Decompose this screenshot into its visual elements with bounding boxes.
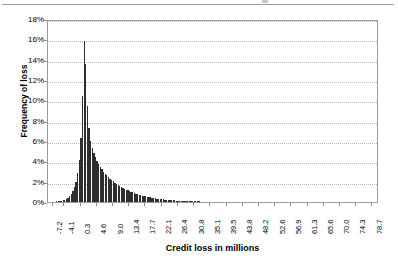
credit-loss-histogram-chart: Frequency of loss 0%2%4%6%8%10%12%14%16%… — [0, 0, 398, 260]
y-axis-tick-label: 0% — [4, 198, 44, 207]
x-axis-tick-mark — [193, 203, 194, 206]
y-axis-tick-label: 14% — [4, 56, 44, 65]
x-axis-tick-label: 56.9 — [294, 220, 303, 234]
x-axis-tick-mark — [258, 203, 259, 206]
x-axis-tick-mark — [144, 203, 145, 206]
x-axis-tick-mark — [274, 203, 275, 206]
gridline — [48, 41, 377, 42]
x-axis-tick-mark — [96, 203, 97, 206]
gridline — [48, 123, 377, 124]
x-axis-tick-mark — [209, 203, 210, 206]
x-axis-tick-label: 70.0 — [342, 220, 351, 234]
x-axis-tick-mark — [63, 203, 64, 206]
y-axis-tick-label: 4% — [4, 157, 44, 166]
x-axis-tick-mark — [161, 203, 162, 206]
plot-area — [47, 20, 378, 203]
x-axis-tick-label: 74.3 — [358, 220, 367, 234]
y-axis-tick-mark — [44, 203, 47, 204]
x-axis-tick-label: 52.6 — [278, 220, 287, 234]
y-axis-tick-label: 18% — [4, 15, 44, 24]
gridline — [48, 143, 377, 144]
x-axis-tick-mark — [307, 203, 308, 206]
x-axis-tick-label: 13.4 — [132, 220, 141, 234]
x-axis-tick-label: 48.2 — [261, 220, 270, 234]
x-axis-title: Credit loss in millions — [47, 243, 378, 253]
y-axis-tick-label: 12% — [4, 76, 44, 85]
y-axis-tick-label: 16% — [4, 35, 44, 44]
gridline — [48, 82, 377, 83]
x-axis-tick-label: -4.1 — [67, 221, 76, 234]
x-axis-tick-label: 78.7 — [375, 220, 384, 234]
x-axis-tick-mark — [290, 203, 291, 206]
x-axis-tick-mark — [177, 203, 178, 206]
gridline — [48, 102, 377, 103]
x-axis-tick-mark — [339, 203, 340, 206]
x-axis-tick-mark — [355, 203, 356, 206]
y-axis-tick-label: 8% — [4, 117, 44, 126]
x-axis-tick-mark — [52, 203, 53, 206]
x-axis-tick-label: 30.8 — [197, 220, 206, 234]
x-axis-tick-mark — [323, 203, 324, 206]
x-axis-tick-label: 4.6 — [99, 224, 108, 234]
x-axis-tick-label: 26.4 — [180, 220, 189, 234]
y-axis-tick-label: 6% — [4, 137, 44, 146]
x-axis-tick-mark — [242, 203, 243, 206]
x-axis-tick-mark — [80, 203, 81, 206]
y-axis-tick-label: 2% — [4, 178, 44, 187]
title-clipped-artifact — [262, 0, 268, 3]
x-axis-tick-mark — [371, 203, 372, 206]
x-axis-tick-label: 17.7 — [148, 220, 157, 234]
x-axis-tick-mark — [128, 203, 129, 206]
x-axis-tick-label: 43.8 — [245, 220, 254, 234]
x-axis-tick-label: -7.2 — [55, 221, 64, 234]
header-divider — [2, 4, 394, 5]
x-axis-tick-label: 35.1 — [213, 220, 222, 234]
x-axis-tick-label: 9.0 — [116, 224, 125, 234]
x-axis-tick-mark — [112, 203, 113, 206]
gridline — [48, 21, 377, 22]
x-axis-tick-label: 61.3 — [310, 220, 319, 234]
x-axis-tick-label: 0.3 — [83, 224, 92, 234]
x-axis-tick-label: 39.5 — [229, 220, 238, 234]
y-axis-tick-label: 10% — [4, 96, 44, 105]
x-axis-tick-label: 22.1 — [164, 220, 173, 234]
x-axis-tick-mark — [226, 203, 227, 206]
gridline — [48, 62, 377, 63]
x-axis-tick-label: 65.6 — [326, 220, 335, 234]
